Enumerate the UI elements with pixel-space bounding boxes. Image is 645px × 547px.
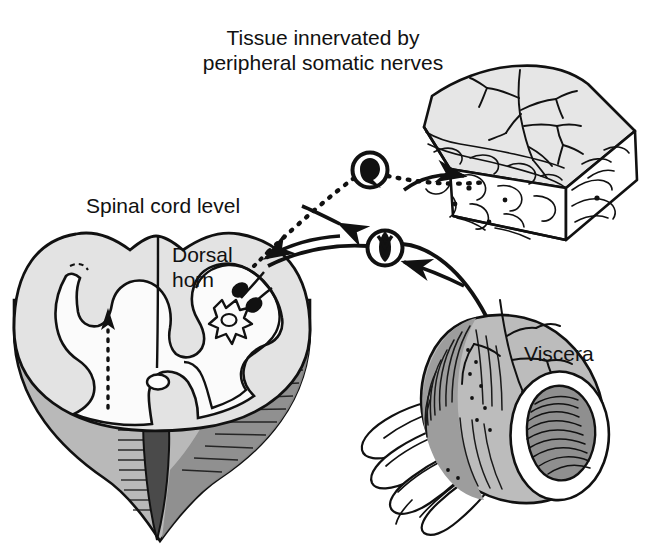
label-dorsal-line1: Dorsal	[172, 243, 233, 266]
viscera-segment	[362, 300, 609, 535]
somatic-tissue-block	[424, 66, 637, 240]
label-dorsal-line2: horn	[172, 268, 214, 291]
projection-neuron-nucleus	[222, 314, 237, 326]
visceral-afferent-ganglion	[368, 231, 403, 266]
spinal-cord-cross-section	[14, 233, 310, 541]
visceral-fibre-peripheral	[402, 244, 486, 316]
label-dorsal-horn: Dorsalhorn	[172, 243, 233, 293]
label-tissue-line1: Tissue innervated by	[227, 26, 420, 49]
diagram-canvas	[0, 0, 645, 547]
label-viscera: Viscera	[524, 342, 594, 367]
label-spinal-cord-level: Spinal cord level	[86, 194, 240, 219]
label-tissue-innervated: Tissue innervated byperipheral somatic n…	[188, 26, 458, 76]
somatic-afferent-ganglion	[353, 153, 388, 189]
label-tissue-line2: peripheral somatic nerves	[203, 51, 443, 74]
central-canal	[147, 375, 169, 390]
dorsal-median-septum	[157, 236, 158, 368]
anatomy-figure: Tissue innervated byperipheral somatic n…	[0, 0, 645, 547]
